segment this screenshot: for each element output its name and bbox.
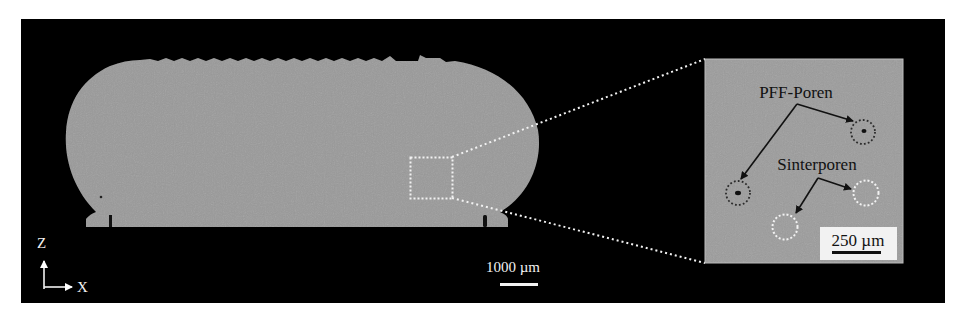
micrograph-figure: PFF-Poren Sinterporen 250 µm Z X 1000 µm (0, 0, 967, 317)
base-notch-right (483, 215, 487, 227)
z-axis-label: Z (37, 235, 46, 251)
pff-pore-right (862, 129, 867, 133)
inset-scale-label: 250 µm (832, 231, 885, 250)
pff-pores-label: PFF-Poren (759, 83, 833, 102)
inset-panel: PFF-Poren Sinterporen 250 µm (705, 59, 903, 263)
main-scale-label: 1000 µm (486, 259, 540, 275)
inset-scale-bar (832, 251, 881, 254)
pore-dot (100, 196, 103, 199)
base-notch-left (109, 215, 112, 227)
pff-pore-left (735, 191, 741, 195)
x-axis-label: X (77, 279, 88, 295)
main-scale-bar (500, 283, 538, 286)
sinter-pores-label: Sinterporen (777, 155, 857, 174)
